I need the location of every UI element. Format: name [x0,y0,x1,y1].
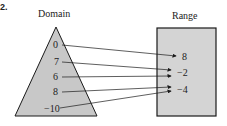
range-value: −2 [177,67,188,78]
domain-value: −10 [44,103,60,114]
domain-value: 6 [53,71,58,82]
mapping-diagram: 0 7 6 8 −10 8 −2 −4 [0,0,227,126]
domain-value: 7 [54,56,59,67]
domain-value: 0 [53,39,58,50]
range-value: −4 [177,84,188,95]
range-value: 8 [182,51,187,62]
domain-value: 8 [53,86,58,97]
